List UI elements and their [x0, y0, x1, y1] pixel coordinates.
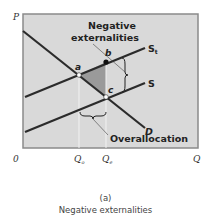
caption-title: Negative externalities [0, 205, 211, 215]
negative-externalities-label-line2: externalities [71, 32, 139, 43]
point-b-marker [103, 59, 108, 64]
point-c-marker [104, 95, 109, 100]
qo-tick-label: Qo [74, 154, 84, 165]
x-axis-label: Q [193, 154, 201, 164]
negative-externalities-label-line1: Negative [88, 20, 136, 31]
point-b-label: b [105, 48, 112, 58]
externality-diagram: P 0 Q Qo Qe St S D a b c Negative extern… [0, 0, 211, 218]
point-c-label: c [108, 85, 114, 95]
y-axis-label: P [12, 12, 20, 22]
point-a-marker [77, 73, 82, 78]
qe-tick-label: Qe [102, 154, 112, 165]
s-curve-label: S [148, 78, 155, 89]
overallocation-label: Overallocation [110, 133, 188, 144]
point-a-label: a [75, 62, 81, 72]
origin-label: 0 [13, 154, 19, 164]
panel-label: (a) [0, 193, 211, 203]
